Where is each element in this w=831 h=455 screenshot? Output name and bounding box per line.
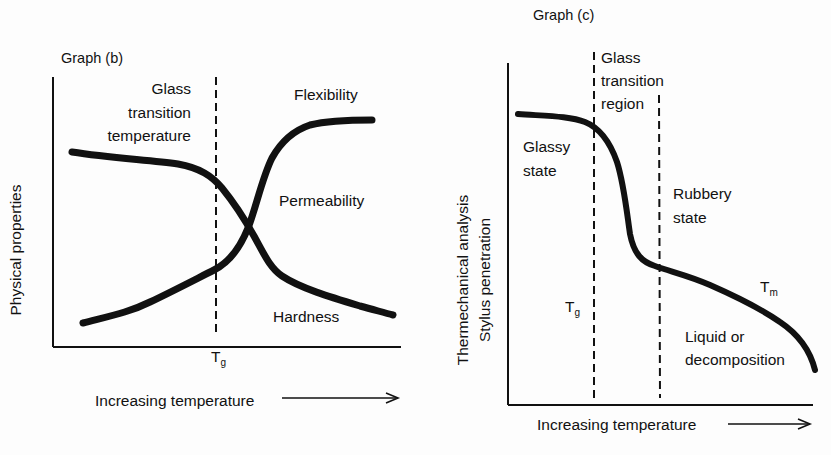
graph-c-x-arrow-icon (728, 419, 810, 429)
liquid-label-2: decomposition (685, 351, 785, 368)
glass-transition-figure: Graph (b) Physical properties Glass tran… (0, 0, 831, 455)
region-label-2: transition (601, 72, 664, 89)
liquid-label-1: Liquid or (685, 328, 744, 345)
graph-c-tm-label: Tm (760, 278, 778, 298)
graph-c: Graph (c) Thermechanical analysis Stylus… (454, 7, 815, 433)
hardness-curve (72, 152, 393, 315)
region-label-3: region (601, 95, 644, 112)
region-label-1: Glass (601, 49, 641, 66)
graph-b-x-arrow-icon (282, 393, 398, 403)
flexibility-label: Flexibility (294, 86, 358, 103)
graph-b-tg-label: Tg (211, 348, 226, 368)
glassy-state-label-2: state (523, 162, 557, 179)
graph-c-title: Graph (c) (533, 7, 594, 23)
graph-b: Graph (b) Physical properties Glass tran… (7, 50, 401, 409)
graph-b-tg-annot-2: transition (128, 104, 191, 121)
graph-c-rubbery-boundary-line (659, 95, 660, 398)
glassy-state-label-1: Glassy (523, 138, 571, 155)
graph-c-x-label: Increasing temperature (537, 416, 696, 433)
hardness-label: Hardness (273, 308, 340, 325)
graph-c-y-label-1: Thermechanical analysis (454, 194, 471, 365)
flexibility-curve (83, 120, 372, 323)
graph-c-y-label-2: Stylus penetration (476, 218, 493, 342)
rubbery-state-label-1: Rubbery (673, 185, 732, 202)
graph-b-y-label: Physical properties (7, 184, 24, 315)
graph-b-x-label: Increasing temperature (95, 392, 254, 409)
graph-c-tg-label: Tg (565, 298, 580, 318)
graph-b-tg-annot-1: Glass (151, 80, 191, 97)
rubbery-state-label-2: state (673, 209, 707, 226)
graph-b-tg-annot-3: temperature (107, 127, 191, 144)
diagram-canvas: Graph (b) Physical properties Glass tran… (0, 0, 831, 455)
graph-b-title: Graph (b) (61, 50, 123, 66)
permeability-label: Permeability (279, 192, 365, 209)
